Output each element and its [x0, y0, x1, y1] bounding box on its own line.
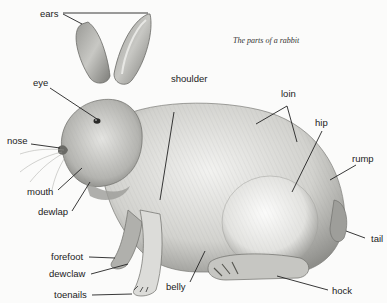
ears-drawing [76, 14, 151, 84]
label-tail: tail [371, 233, 383, 244]
label-ears: ears [40, 8, 58, 19]
diagram-caption: The parts of a rabbit [233, 36, 299, 45]
label-hip: hip [315, 117, 328, 128]
label-forefoot: forefoot [51, 251, 83, 262]
whiskers-drawing [20, 149, 66, 190]
rabbit-diagram: The parts of a rabbit ears eye nose mout… [0, 0, 387, 303]
label-dewlap: dewlap [38, 206, 68, 217]
label-loin: loin [281, 88, 296, 99]
label-belly: belly [166, 281, 186, 292]
label-toenails: toenails [54, 289, 87, 300]
label-dewclaw: dewclaw [49, 268, 85, 279]
label-mouth: mouth [27, 186, 53, 197]
label-eye: eye [33, 77, 48, 88]
label-nose: nose [7, 135, 28, 146]
label-hock: hock [332, 285, 352, 296]
label-rump: rump [352, 153, 374, 164]
label-shoulder: shoulder [171, 73, 207, 84]
